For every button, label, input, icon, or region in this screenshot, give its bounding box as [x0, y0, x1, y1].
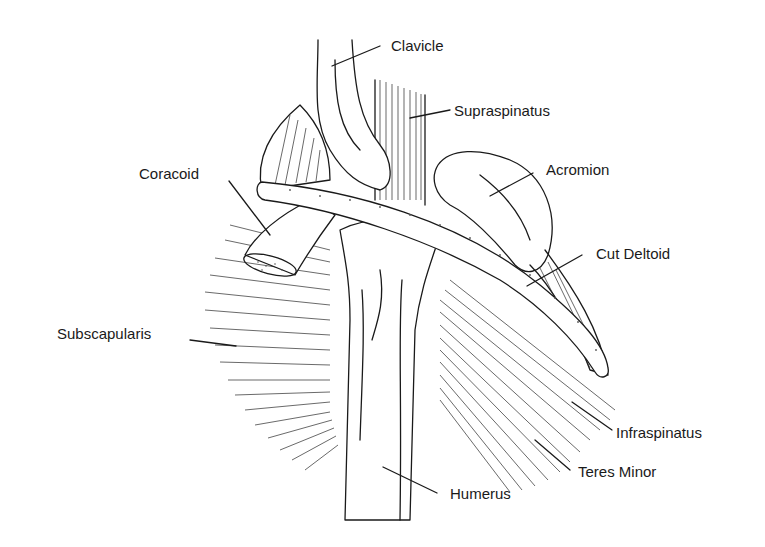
humerus-bone	[340, 219, 440, 520]
coracoid-bone	[242, 200, 335, 281]
label-acromion: Acromion	[546, 162, 609, 177]
leader-subscapularis	[190, 340, 236, 346]
label-infraspinatus: Infraspinatus	[616, 425, 702, 440]
infraspinatus-muscle	[440, 280, 615, 492]
label-cut-deltoid: Cut Deltoid	[596, 246, 670, 261]
label-subscapularis: Subscapularis	[57, 326, 151, 341]
clavicle-bone	[317, 40, 390, 190]
label-teres-minor: Teres Minor	[578, 464, 656, 479]
label-clavicle: Clavicle	[391, 38, 444, 53]
label-humerus: Humerus	[450, 486, 511, 501]
label-coracoid: Coracoid	[139, 166, 199, 181]
label-supraspinatus: Supraspinatus	[454, 103, 550, 118]
leader-teres-minor	[535, 440, 570, 470]
shoulder-anatomy-diagram: Clavicle Supraspinatus Acromion Coracoid…	[0, 0, 765, 547]
